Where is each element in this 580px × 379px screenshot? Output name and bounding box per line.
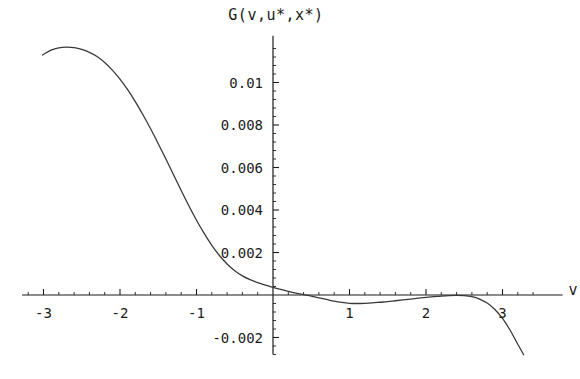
x-axis-label: v <box>569 281 578 299</box>
plot-figure: G(v,u*,x*) -3-2-1123 0.010.0080.0060.004… <box>0 0 580 379</box>
x-tick-label: -3 <box>35 305 52 321</box>
x-tick-label: 1 <box>345 305 353 321</box>
x-tick-label: -1 <box>188 305 205 321</box>
y-axis <box>273 36 279 355</box>
y-tick-label: 0.008 <box>0 117 263 133</box>
x-tick-label: 3 <box>498 305 506 321</box>
y-tick-label: -0.002 <box>0 330 263 346</box>
y-axis-major-ticks <box>273 83 279 338</box>
y-tick-label: 0.002 <box>0 245 263 261</box>
plot-canvas <box>0 0 580 379</box>
x-tick-label: 2 <box>422 305 430 321</box>
y-tick-label: 0.01 <box>0 75 263 91</box>
y-tick-label: 0.004 <box>0 202 263 218</box>
x-tick-label: -2 <box>112 305 129 321</box>
y-tick-label: 0.006 <box>0 160 263 176</box>
